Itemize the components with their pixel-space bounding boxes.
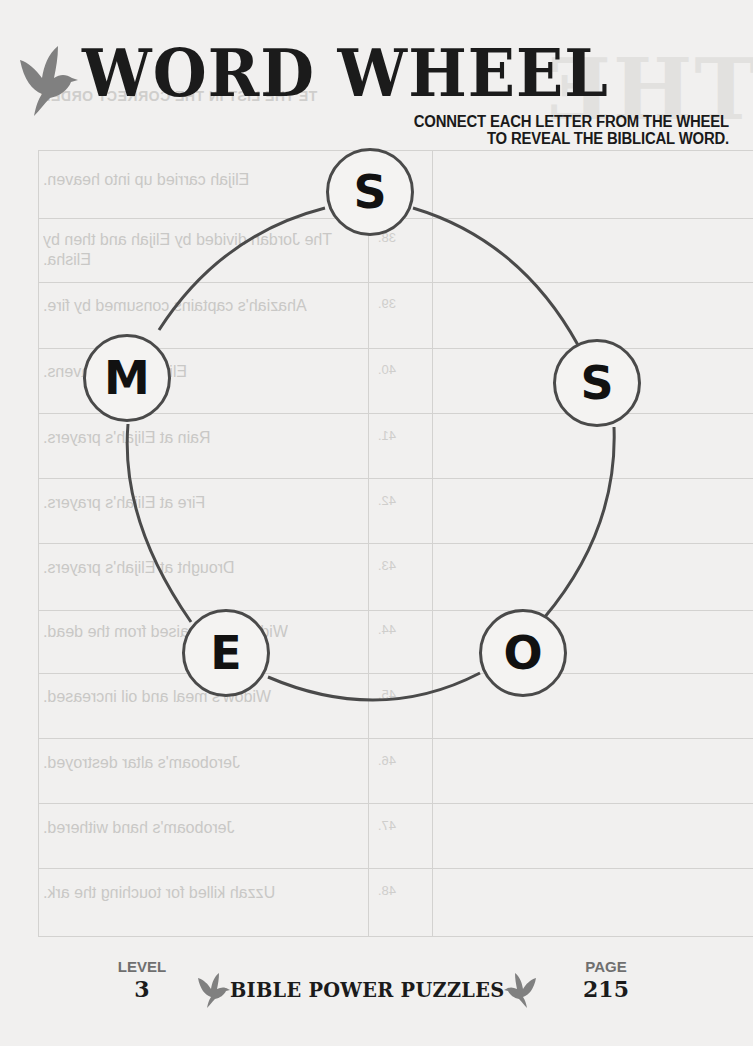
page-number: 215 [576,976,636,1002]
level-label: LEVEL [112,958,172,975]
level-value: 3 [112,976,172,1002]
wheel-letter-right[interactable]: S [553,339,641,427]
dove-icon-left [196,972,230,1008]
wheel-letter-top[interactable]: S [326,148,414,236]
wheel-letter-left[interactable]: M [83,334,171,422]
dove-icon-right [504,972,538,1008]
page-label: PAGE [576,958,636,975]
brand-name: BIBLE POWER PUZZLES [230,977,504,1002]
wheel-letter-bottom-left[interactable]: E [182,609,270,697]
wheel-letter-bottom-right[interactable]: O [479,609,567,697]
puzzle-page: THE TE THE LIST IN THE CORRECT ORDER Eli… [0,0,753,1046]
